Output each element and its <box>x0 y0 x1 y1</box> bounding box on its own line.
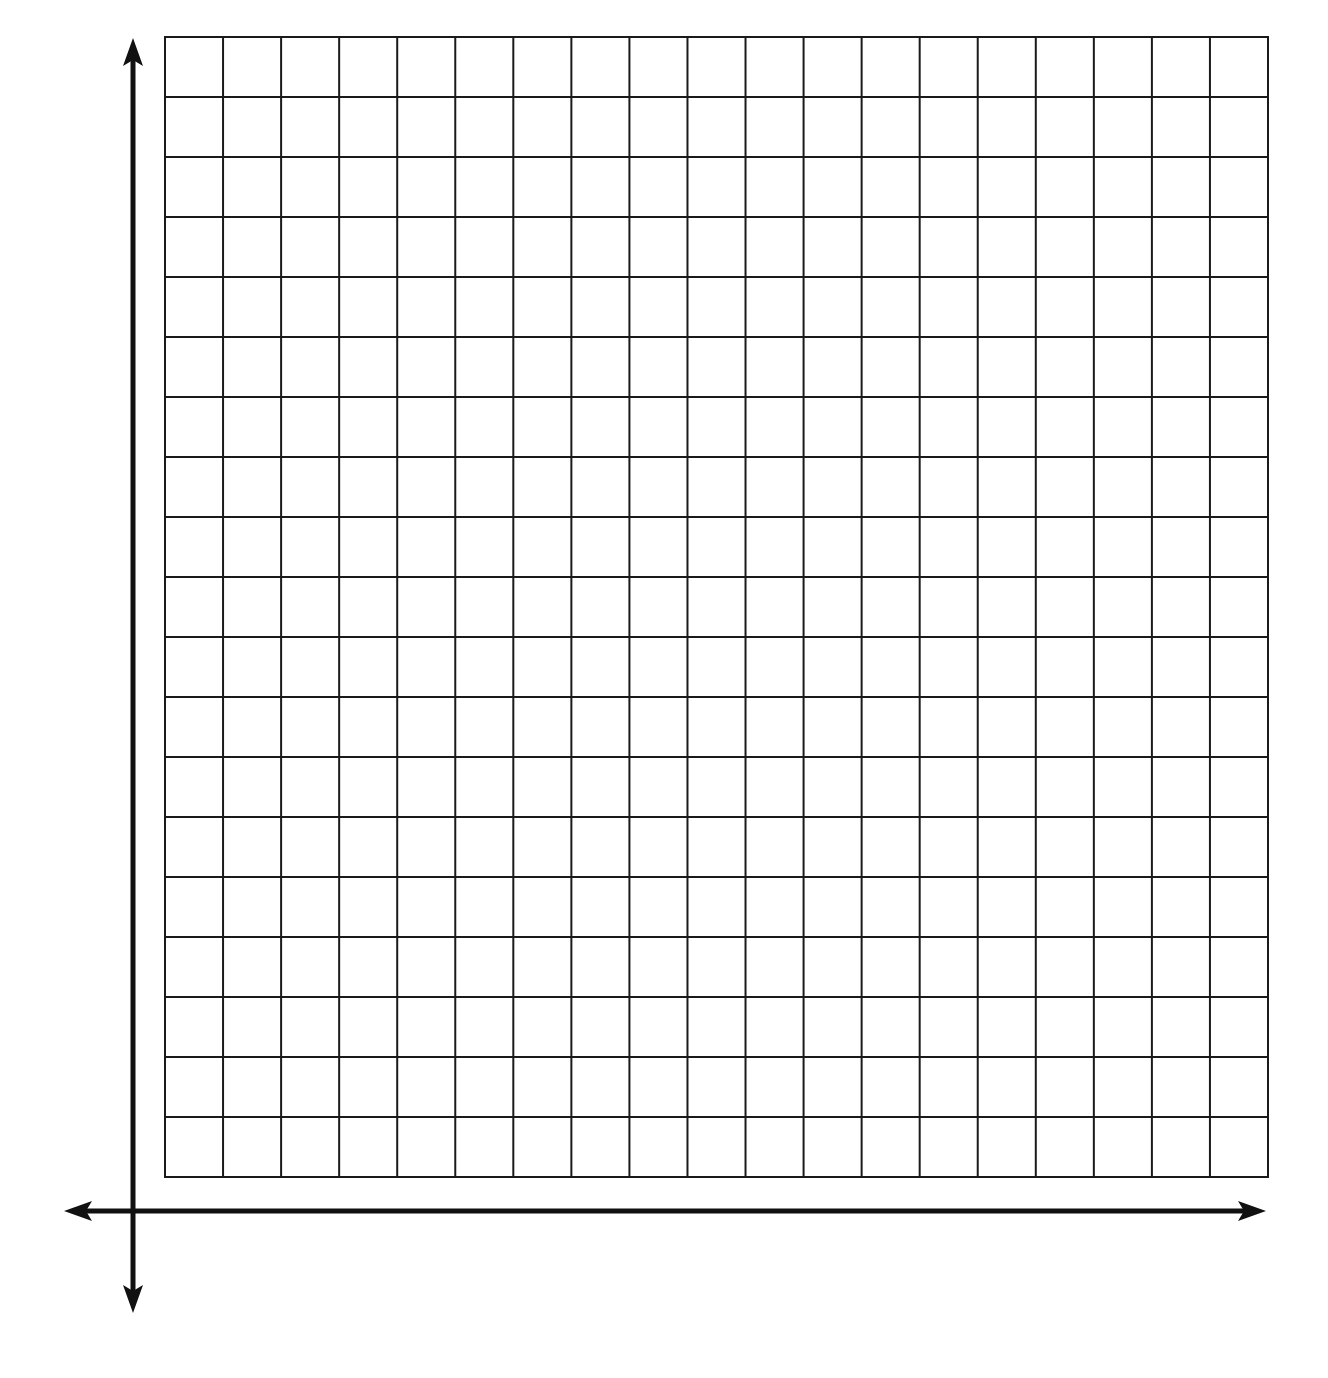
grid-lines <box>165 37 1268 1177</box>
axes <box>64 38 1266 1313</box>
coordinate-grid-chart <box>0 0 1328 1378</box>
